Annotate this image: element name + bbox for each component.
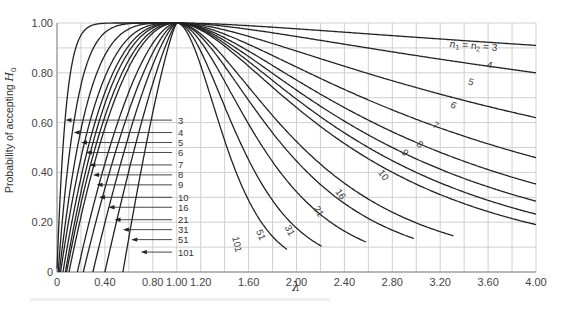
x-tick: 0.80 bbox=[142, 276, 163, 288]
right-label-7: 7 bbox=[431, 119, 441, 131]
left-label-6: 6 bbox=[178, 147, 183, 158]
right-label-101: 101 bbox=[230, 235, 244, 253]
x-tick: 0.40 bbox=[94, 276, 115, 288]
x-tick: 2.40 bbox=[334, 276, 355, 288]
x-tick: 3.60 bbox=[477, 276, 498, 288]
y-tick: 0 bbox=[47, 266, 53, 278]
y-axis-label-text: Probability of accepting bbox=[3, 82, 15, 193]
x-axis-label: λ bbox=[291, 280, 300, 294]
left-label-3: 3 bbox=[178, 115, 183, 126]
svg-text:Probability of accepting H0: Probability of accepting H0 bbox=[3, 67, 18, 193]
x-tick: 2.80 bbox=[382, 276, 403, 288]
right-label-31: 31 bbox=[283, 223, 298, 238]
x-tick: 0 bbox=[54, 276, 60, 288]
y-tick: 1.00 bbox=[32, 17, 53, 29]
x-tick: 3.20 bbox=[429, 276, 450, 288]
left-label-16: 16 bbox=[178, 202, 189, 213]
left-label-101: 101 bbox=[178, 247, 194, 258]
x-tick: 1.60 bbox=[238, 276, 259, 288]
right-label-21: 21 bbox=[312, 204, 327, 219]
y-tick: 0.40 bbox=[32, 166, 53, 178]
y-axis-label: Probability of accepting H0 bbox=[3, 67, 18, 193]
x-tick: 1.00 bbox=[166, 276, 187, 288]
left-label-9: 9 bbox=[178, 179, 183, 190]
y-tick: 0.60 bbox=[32, 117, 53, 129]
right-label-5: 5 bbox=[467, 76, 476, 88]
x-tick-labels: 00.400.801.001.201.602.002.402.803.203.6… bbox=[54, 276, 547, 288]
x-tick: 1.20 bbox=[190, 276, 211, 288]
left-label-51: 51 bbox=[178, 234, 189, 245]
right-label-10: 10 bbox=[376, 167, 391, 182]
oc-curve-chart: 00.400.801.001.201.602.002.402.803.203.6… bbox=[0, 0, 565, 314]
x-tick: 4.00 bbox=[525, 276, 546, 288]
right-label-6: 6 bbox=[449, 99, 459, 111]
right-label-51: 51 bbox=[254, 228, 268, 242]
y-axis-label-symbol: H bbox=[3, 72, 16, 83]
right-label-9: 9 bbox=[400, 147, 412, 159]
y-tick: 0.80 bbox=[32, 67, 53, 79]
y-tick-labels: 00.200.400.600.801.00 bbox=[32, 17, 53, 278]
right-label-4: 4 bbox=[486, 59, 493, 71]
right-curve-labels: 4567891016213151101 bbox=[230, 59, 493, 254]
y-axis-label-subscript: 0 bbox=[9, 67, 18, 72]
right-label-16: 16 bbox=[333, 187, 348, 202]
figure-caption-faint bbox=[30, 298, 330, 301]
y-tick: 0.20 bbox=[32, 216, 53, 228]
